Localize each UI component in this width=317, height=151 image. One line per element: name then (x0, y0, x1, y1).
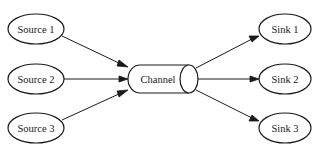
arrowhead-icon (117, 90, 128, 97)
node-label: Sink 2 (271, 74, 298, 85)
node-sink-1[interactable]: Sink 1 (259, 14, 311, 44)
node-label: Channel (141, 74, 176, 85)
edge-channel-sink1 (196, 36, 259, 68)
edge-channel-sink2 (198, 76, 259, 82)
edge-source1-channel (62, 36, 128, 67)
node-sink-3[interactable]: Sink 3 (259, 113, 311, 143)
arrowhead-icon (249, 36, 259, 42)
node-source-3[interactable]: Source 3 (8, 113, 64, 143)
node-source-2[interactable]: Source 2 (8, 64, 64, 94)
node-channel[interactable]: Channel (128, 65, 198, 93)
diagram-canvas: Source 1 Source 2 Source 3 Channel Sink … (0, 0, 317, 151)
edge-source3-channel (62, 90, 128, 120)
node-source-1[interactable]: Source 1 (8, 14, 64, 44)
arrowhead-icon (250, 76, 259, 82)
arrowhead-icon (117, 60, 128, 67)
node-label: Sink 1 (271, 24, 298, 35)
arrowhead-icon (249, 115, 259, 121)
edge-source2-channel (64, 76, 128, 82)
arrowhead-icon (119, 76, 128, 82)
edge-channel-sink3 (196, 90, 259, 121)
node-label: Source 3 (17, 123, 54, 134)
node-sink-2[interactable]: Sink 2 (259, 64, 311, 94)
channel-cylinder-cap (180, 65, 198, 93)
node-label: Source 1 (17, 24, 54, 35)
node-label: Sink 3 (271, 123, 298, 134)
node-label: Source 2 (17, 74, 54, 85)
